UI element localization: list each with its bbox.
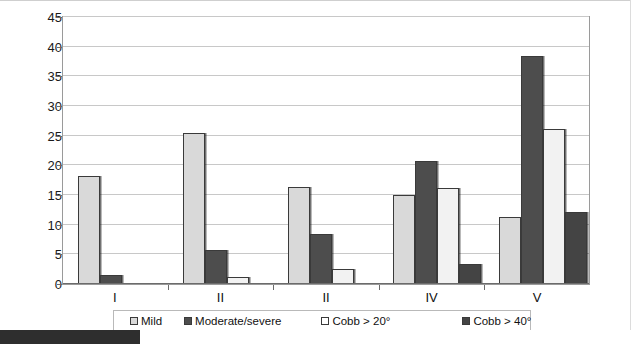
y-axis-tick-label: 20	[16, 159, 62, 172]
legend-label: Cobb > 40°	[473, 315, 531, 327]
bar-chart: 051015202530354045 IIIIIIVV MildModerate…	[0, 0, 631, 344]
bar-group-bars	[499, 17, 587, 284]
x-axis-tick-label: II	[273, 290, 379, 305]
bar-group	[168, 17, 273, 284]
legend-swatch-icon	[462, 317, 470, 325]
bar-group	[273, 17, 378, 284]
bar[interactable]	[310, 234, 332, 284]
x-axis-tick-mark	[168, 285, 169, 290]
bar[interactable]	[205, 250, 227, 284]
bar[interactable]	[437, 188, 459, 284]
bar-groups	[63, 17, 589, 284]
y-axis-tick-label: 30	[16, 100, 62, 113]
y-axis-tick-label: 5	[16, 248, 62, 261]
bar[interactable]	[183, 133, 205, 284]
x-axis-tick-mark	[484, 285, 485, 290]
bar[interactable]	[499, 217, 521, 284]
y-axis-tick-label: 45	[16, 11, 62, 24]
bar-group	[484, 17, 589, 284]
legend-label: Cobb > 20°	[332, 315, 390, 327]
chart-page: 051015202530354045 IIIIIIVV MildModerate…	[0, 0, 631, 344]
bar[interactable]	[332, 269, 354, 284]
bar-group-bars	[183, 17, 249, 284]
legend-swatch-icon	[321, 317, 329, 325]
bar[interactable]	[415, 161, 437, 284]
bar-group-bars	[393, 17, 481, 284]
y-axis-tick-label: 35	[16, 70, 62, 83]
y-axis-tick-label: 10	[16, 218, 62, 231]
bar-group	[379, 17, 484, 284]
bar[interactable]	[565, 212, 587, 284]
x-axis-tick-label: II	[167, 290, 273, 305]
x-axis-tick-label: IV	[379, 290, 485, 305]
bar-group-bars	[288, 17, 354, 284]
y-axis-tick-label: 40	[16, 40, 62, 53]
x-axis-tick-mark	[379, 285, 380, 290]
bar[interactable]	[521, 56, 543, 284]
y-axis-tick-label: 15	[16, 189, 62, 202]
legend-label: Moderate/severe	[195, 315, 281, 327]
bar[interactable]	[288, 187, 310, 284]
y-axis-tick-label: 25	[16, 129, 62, 142]
legend-swatch-icon	[130, 317, 138, 325]
legend-item[interactable]: Moderate/severe	[184, 315, 281, 327]
bottom-white-strip	[140, 330, 631, 344]
bar-group-bars	[78, 17, 122, 284]
bar[interactable]	[393, 195, 415, 284]
plot-area	[62, 16, 590, 285]
legend-item[interactable]: Cobb > 40°	[462, 315, 531, 327]
legend-label: Mild	[141, 315, 162, 327]
bottom-dark-band	[0, 330, 140, 344]
bar[interactable]	[459, 264, 481, 284]
y-axis-tick-label: 0	[16, 278, 62, 291]
legend-item[interactable]: Cobb > 20°	[321, 315, 390, 327]
bar[interactable]	[543, 129, 565, 284]
x-axis-tick-mark	[273, 285, 274, 290]
chart-legend: MildModerate/severeCobb > 20°Cobb > 40°	[113, 310, 531, 332]
legend-item[interactable]: Mild	[130, 315, 162, 327]
bar[interactable]	[78, 176, 100, 284]
x-axis-tick-label: I	[62, 290, 168, 305]
axis-baseline	[63, 283, 589, 284]
y-axis: 051015202530354045	[0, 0, 62, 344]
legend-swatch-icon	[184, 317, 192, 325]
x-axis-tick-label: V	[484, 290, 590, 305]
bar-group	[63, 17, 168, 284]
